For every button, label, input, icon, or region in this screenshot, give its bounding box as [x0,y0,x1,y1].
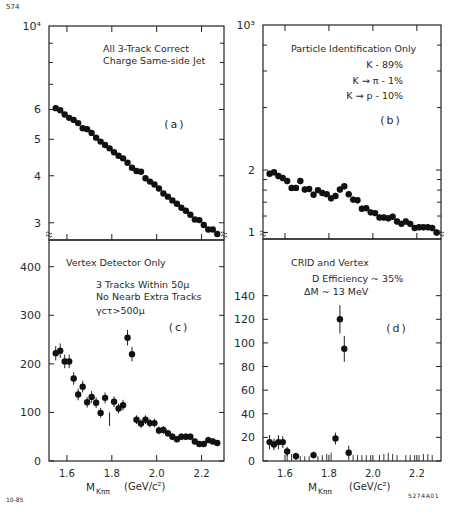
x-tick-label: 1.6 [277,468,293,479]
panel-b-chart: 2110³Particle Identification OnlyK - 89%… [237,19,444,239]
x-axis-units: (GeV/c²) [124,481,166,492]
x-axis-title-right: M Kππ (GeV/c²) [308,481,391,496]
y-tick-label: 60 [241,384,255,397]
panel-label: (c) [169,321,190,334]
data-point [284,448,290,454]
data-point [156,185,162,191]
x-tick-label: 1.8 [104,468,120,479]
data-point [341,183,347,189]
y-tick-label: 120 [234,313,255,326]
data-point [341,346,347,352]
data-point [187,434,193,440]
y-tick-label: 3 [34,217,41,230]
y-tick-label: 0 [248,455,255,468]
data-point [70,375,76,381]
data-point [97,410,103,416]
data-point [75,120,81,126]
data-point [124,160,130,166]
data-point [88,394,94,400]
panel-annotation: K → p - 10% [346,90,403,101]
data-point [75,391,81,397]
data-point [214,231,220,237]
data-point [124,334,130,340]
plot-frame [263,25,441,239]
data-point [293,185,299,191]
panel-annotation: Particle Identification Only [291,43,417,54]
data-point [214,440,220,446]
y-tick-label: 400 [20,261,41,274]
data-point [310,452,316,458]
figure-id: 5274A01 [408,492,439,499]
panel-annotation: CRID and Vertex [291,257,369,268]
x-axis-label-sub: Kππ [318,487,332,496]
data-point [88,130,94,136]
panel-annotation: Charge Same-side Jet [103,55,206,66]
x-tick-label: 1.6 [59,468,75,479]
x-tick-label: 2.2 [194,468,210,479]
x-axis-title-left: M Kππ (GeV/c²) [86,481,166,496]
data-point [346,191,352,197]
data-point [332,193,338,199]
panel-a-chart: 654310⁴All 3-Track CorrectCharge Same-si… [23,20,227,240]
data-point [93,400,99,406]
y-tick-label: 5 [34,133,41,146]
data-point [111,399,117,405]
y-tick-label: 100 [20,406,41,419]
data-point [310,192,316,198]
data-point [120,402,126,408]
data-point [332,435,338,441]
panel-annotation: All 3-Track Correct [103,43,189,54]
data-point [354,197,360,203]
y-tick-label: 1 [248,226,255,239]
panel-c-chart: 1.61.82.02.20100200300400Vertex Detector… [20,234,224,479]
x-tick-label: 2.2 [409,468,425,479]
data-point [84,399,90,405]
panel-label: (a) [164,118,185,131]
panel-annotation: Vertex Detector Only [66,257,166,268]
y-tick-label: 40 [241,408,255,421]
y-tick-label: 20 [241,431,255,444]
y-tick-label: 100 [234,337,255,350]
data-point [346,450,352,456]
y-tick-label: 4 [34,170,41,183]
panel-annotation: γcτ>500μ [96,305,145,316]
data-point [280,439,286,445]
x-tick-label: 2.0 [149,468,165,479]
date-code: 10-85 [6,496,24,503]
y-tick-label: 2 [248,164,255,177]
data-point [389,214,395,220]
data-point [151,420,157,426]
x-tick-label: 2.0 [365,468,381,479]
x-axis-label-sub: Kππ [96,487,110,496]
data-point [196,217,202,223]
corner-label: 574 [6,3,20,11]
panel-annotation: K → π - 1% [353,75,404,86]
panel-label: (d) [386,322,408,335]
data-point [297,178,303,184]
panel-d-chart: 1.61.82.02.2020406080100120140CRID and V… [234,233,441,479]
data-point [79,383,85,389]
data-point [210,226,216,232]
data-point [129,351,135,357]
y-tick-label: 300 [20,309,41,322]
x-axis-units: (GeV/c²) [349,481,391,492]
y-tick-label: 80 [241,361,255,374]
data-point [57,348,63,354]
figure-canvas: 574 654310⁴All 3-Track CorrectCharge Sam… [0,0,461,522]
y-tick-label: 140 [234,290,255,303]
data-point [337,316,343,322]
x-tick-label: 1.8 [321,468,337,479]
data-point [284,178,290,184]
panel-annotation: D Efficiency ~ 35% [312,273,403,284]
y-tick-label: 6 [34,103,41,116]
data-point [306,186,312,192]
panel-annotation: 3 Tracks Within 50μ [96,279,189,290]
panel-annotation: K - 89% [366,59,403,70]
x-axis-label-main: M [86,481,95,493]
panel-annotation: No Nearb Extra Tracks [96,291,202,302]
data-point [138,169,144,175]
data-point [66,358,72,364]
y-multiplier-label: 10³ [237,19,255,32]
panel-label: (b) [380,114,402,127]
y-tick-label: 200 [20,358,41,371]
